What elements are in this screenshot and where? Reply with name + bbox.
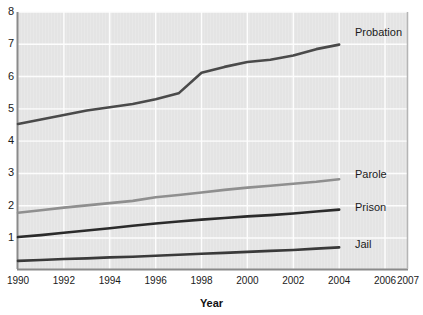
y-tick-label-8: 8: [0, 6, 14, 17]
x-tick-label-2004: 2004: [319, 275, 359, 286]
y-tick-label-2: 2: [0, 200, 14, 211]
series-label-probation: Probation: [355, 27, 402, 38]
y-tick-label-1: 1: [0, 232, 14, 243]
x-tick-label-1998: 1998: [182, 275, 222, 286]
x-tick-label-1992: 1992: [44, 275, 84, 286]
x-axis-title: Year: [0, 297, 423, 309]
x-tick-label-1994: 1994: [90, 275, 130, 286]
series-label-parole: Parole: [355, 169, 387, 180]
x-tick-label-1990: 1990: [0, 275, 38, 286]
y-tick-label-6: 6: [0, 71, 14, 82]
y-tick-label-4: 4: [0, 135, 14, 146]
y-tick-label-5: 5: [0, 103, 14, 114]
y-tick-label-3: 3: [0, 167, 14, 178]
x-tick-label-2002: 2002: [273, 275, 313, 286]
x-tick-label-2007: 2007: [388, 275, 423, 286]
x-tick-label-2000: 2000: [227, 275, 267, 286]
chart-plot-svg: [0, 0, 423, 315]
series-label-prison: Prison: [355, 202, 386, 213]
series-label-jail: Jail: [355, 239, 372, 250]
x-tick-label-1996: 1996: [136, 275, 176, 286]
y-tick-label-7: 7: [0, 38, 14, 49]
chart-container: 12345678 1990199219941996199820002002200…: [0, 0, 423, 315]
